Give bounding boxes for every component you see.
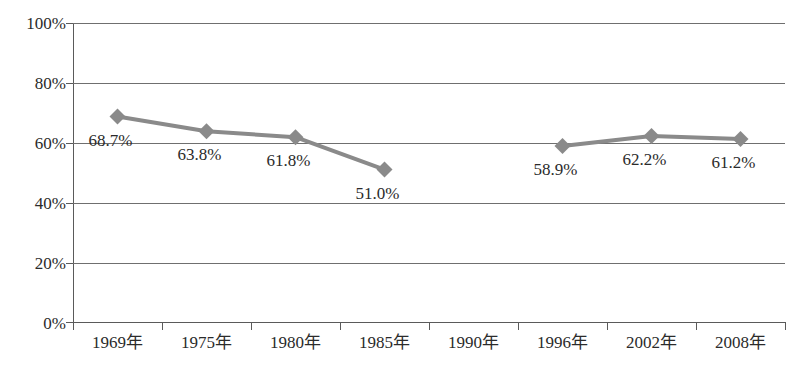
y-axis-tick (66, 203, 73, 204)
x-axis-tick-label: 2002年 (607, 333, 696, 353)
y-axis-tick-label: 80% (2, 75, 66, 92)
x-axis-tick (340, 322, 341, 330)
y-axis-tick-label: 0% (2, 315, 66, 332)
x-axis-tick-label: 1980年 (251, 333, 340, 353)
plot-area (73, 23, 785, 322)
x-axis-tick-label: 1985年 (340, 333, 429, 353)
y-axis-tick (66, 23, 73, 24)
y-axis-tick-label: 40% (2, 195, 66, 212)
data-point-label: 58.9% (518, 161, 594, 178)
x-axis-tick (251, 322, 252, 330)
data-point-label: 68.7% (73, 132, 149, 149)
gridline-100 (73, 23, 785, 24)
data-point-label: 51.0% (340, 185, 416, 202)
x-axis-tick (696, 322, 697, 330)
x-axis-tick (73, 322, 74, 330)
y-axis-tick (66, 322, 73, 323)
x-axis-tick-label: 1969年 (73, 333, 162, 353)
x-axis-tick-label: 1996年 (518, 333, 607, 353)
y-axis-labels: 100% 80% 60% 40% 20% 0% (0, 0, 66, 374)
x-axis-labels: 1969年 1975年 1980年 1985年 1990年 1996年 2002… (73, 333, 785, 363)
x-axis-tick (785, 322, 786, 330)
y-axis-tick (66, 83, 73, 84)
x-axis-tick (518, 322, 519, 330)
data-point-label: 63.8% (162, 146, 238, 163)
x-axis-tick (162, 322, 163, 330)
data-point-label: 61.8% (251, 152, 327, 169)
data-point-label: 62.2% (607, 151, 683, 168)
gridline-60 (73, 143, 785, 144)
data-point-label: 61.2% (696, 154, 772, 171)
gridline-40 (73, 203, 785, 204)
y-axis-tick-label: 60% (2, 135, 66, 152)
x-axis-tick-label: 1975年 (162, 333, 251, 353)
x-axis-tick (429, 322, 430, 330)
x-axis-tick-label: 1990年 (429, 333, 518, 353)
y-axis-tick-label: 20% (2, 255, 66, 272)
line-chart: 100% 80% 60% 40% 20% 0% 1969年 1975年 1980… (0, 0, 796, 374)
gridline-80 (73, 83, 785, 84)
x-axis-tick-label: 2008年 (696, 333, 785, 353)
gridline-20 (73, 263, 785, 264)
x-axis-tick (607, 322, 608, 330)
y-axis-tick-label: 100% (2, 15, 66, 32)
y-axis-tick (66, 263, 73, 264)
